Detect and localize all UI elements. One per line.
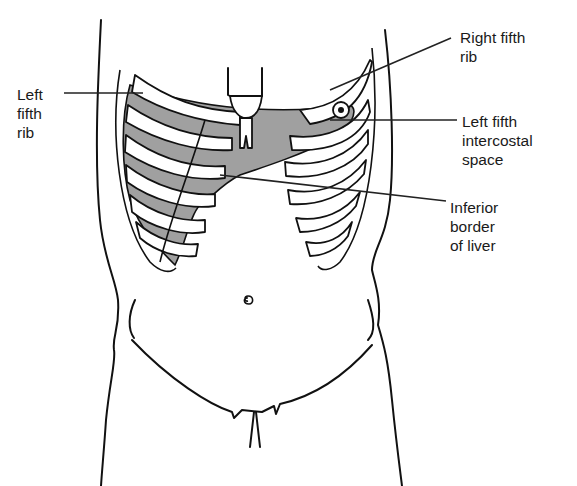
label-inferior-border-of-liver: Inferior border of liver — [450, 198, 498, 255]
left-iliac-crest — [130, 300, 135, 338]
umbilicus — [244, 296, 252, 304]
pubic-lines — [250, 412, 260, 447]
right-rib-cage — [285, 48, 375, 269]
pelvic-line — [132, 340, 372, 418]
torso-left-outline — [97, 20, 118, 486]
label-right-fifth-rib: Right fifth rib — [460, 28, 525, 66]
label-left-fifth-rib: Left fifth rib — [17, 85, 43, 142]
label-left-fifth-intercostal-space: Left fifth intercostal space — [462, 112, 533, 169]
anatomy-figure: Left fifth rib Right fifth rib Left fift… — [0, 0, 577, 486]
right-iliac-crest — [368, 300, 373, 340]
torso-right-outline — [372, 30, 402, 486]
